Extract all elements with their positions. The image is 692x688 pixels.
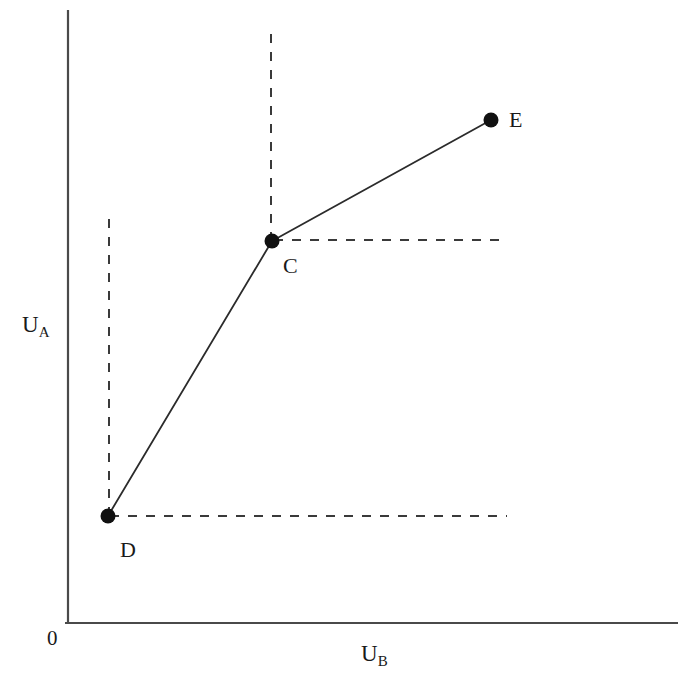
x-axis-label-main: U <box>361 641 378 666</box>
figure-canvas: UA UB 0 D C E <box>0 0 692 688</box>
plot-area <box>0 0 692 688</box>
x-axis-label-subscript: B <box>378 653 388 669</box>
frontier-curve <box>108 120 491 516</box>
data-point-e[interactable] <box>484 113 499 128</box>
data-point-label-c: C <box>283 255 298 277</box>
y-axis-label: UA <box>22 313 49 336</box>
data-point-d[interactable] <box>101 509 116 524</box>
y-axis-label-subscript: A <box>39 324 50 340</box>
data-point-label-e: E <box>509 109 522 131</box>
origin-label: 0 <box>47 628 58 649</box>
data-point-label-d: D <box>120 539 136 561</box>
y-axis-label-main: U <box>22 312 39 337</box>
data-point-c[interactable] <box>265 234 280 249</box>
x-axis-label: UB <box>361 642 388 665</box>
